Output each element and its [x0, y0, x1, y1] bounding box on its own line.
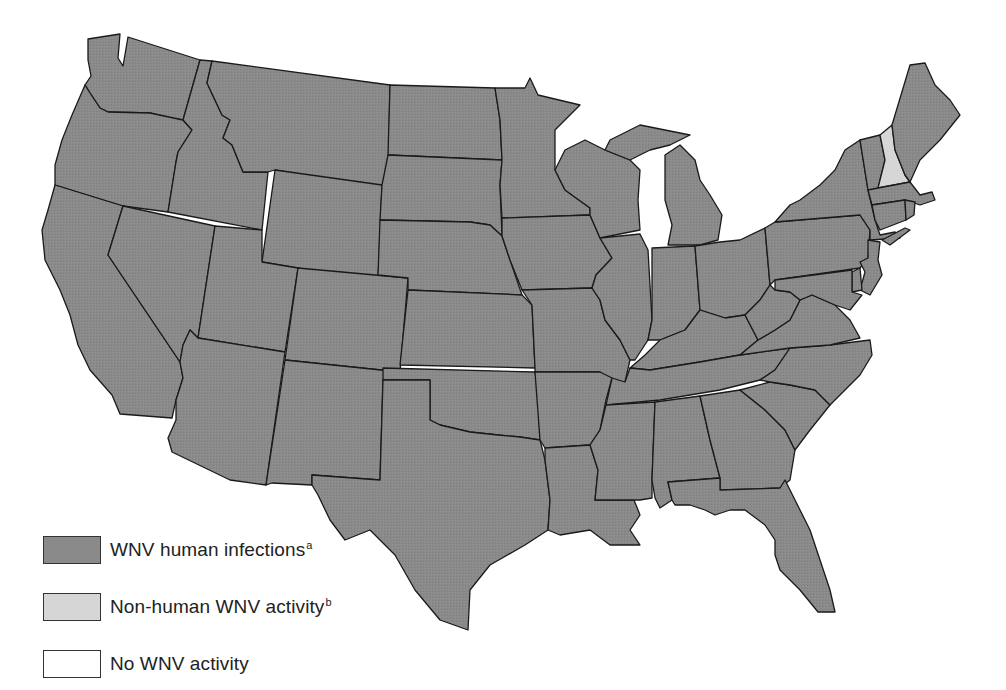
legend-swatch-human-infections — [43, 536, 101, 564]
state-WA — [85, 34, 200, 120]
state-KS — [400, 290, 535, 368]
state-FL — [668, 478, 835, 612]
state-CT — [872, 200, 906, 230]
legend-item-non-human-activity: Non-human WNV activityb — [43, 592, 332, 622]
legend-item-no-activity: No WNV activity — [43, 649, 332, 679]
legend-swatch-non-human-activity — [43, 593, 101, 621]
legend-swatch-no-activity — [43, 650, 101, 678]
state-AZ — [168, 330, 285, 485]
legend-label: No WNV activity — [110, 653, 249, 675]
state-RI — [905, 200, 915, 220]
map-legend: WNV human infectionsa Non-human WNV acti… — [43, 535, 332, 679]
legend-item-human-infections: WNV human infectionsa — [43, 535, 332, 565]
state-DE — [852, 268, 862, 292]
state-CO — [285, 268, 408, 372]
state-ME — [892, 63, 960, 182]
legend-label: WNV human infectionsa — [110, 539, 312, 561]
state-ND — [388, 85, 502, 160]
legend-label: Non-human WNV activityb — [110, 596, 332, 618]
